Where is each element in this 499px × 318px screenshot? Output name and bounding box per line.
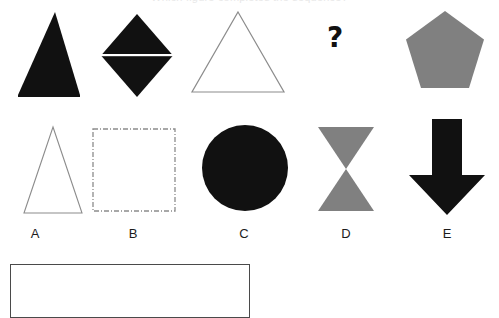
circle-icon [201, 124, 289, 212]
split-diamond-icon [101, 14, 173, 97]
outline-triangle-icon [190, 10, 286, 94]
answer-entry-box[interactable] [10, 264, 250, 318]
option-c-black-circle[interactable] [201, 124, 289, 212]
outline-triangle-icon [22, 125, 84, 215]
option-labels-row: A B C D E [0, 226, 499, 246]
option-label-a: A [15, 226, 55, 241]
option-e-down-arrow[interactable] [409, 119, 485, 215]
option-b-dashed-square[interactable] [92, 128, 176, 212]
option-label-d: D [326, 226, 366, 241]
black-triangle-icon [18, 12, 80, 98]
option-label-c: C [224, 226, 264, 241]
option-d-gray-bowtie[interactable] [318, 127, 374, 211]
problem-cell-3-outline-triangle [190, 10, 286, 94]
problem-cell-2-split-diamond [101, 14, 173, 97]
problem-cell-5-gray-pentagon [406, 11, 484, 90]
option-label-e: E [427, 226, 467, 241]
bowtie-icon [318, 127, 374, 211]
dashed-square-icon [92, 128, 176, 212]
question-mark-icon: ? [327, 24, 343, 52]
problem-cell-1-black-triangle [18, 12, 80, 98]
option-a-outline-triangle[interactable] [22, 125, 84, 215]
option-label-b: B [113, 226, 153, 241]
clipped-header-text: Which figure completes the sequence? [0, 0, 499, 3]
pentagon-icon [406, 11, 484, 90]
down-arrow-icon [409, 119, 485, 215]
